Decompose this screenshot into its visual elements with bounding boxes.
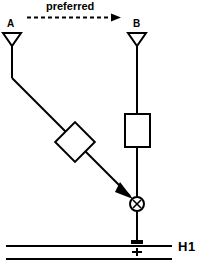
- antenna-a-symbol: [3, 33, 21, 78]
- branch-a-path: [12, 78, 133, 199]
- branch-b-path: [125, 114, 150, 197]
- bus-h1-label: H1: [178, 240, 196, 253]
- rectangle-component: [125, 114, 150, 147]
- antenna-b-label: B: [133, 19, 140, 29]
- antenna-b-symbol: [128, 33, 146, 114]
- mixer-symbol: [130, 197, 144, 211]
- antenna-a-triangle: [3, 33, 21, 46]
- antenna-b-triangle: [128, 33, 146, 46]
- preferred-direction-arrow: [27, 14, 121, 22]
- schematic-canvas: [0, 0, 206, 267]
- bus-tap-bar: [131, 240, 143, 244]
- dashed-arrow-head: [111, 14, 121, 22]
- antenna-a-label: A: [7, 19, 14, 29]
- schematic-diagram: preferred A B H1: [0, 0, 206, 267]
- bus-h1: [6, 246, 172, 259]
- preferred-label: preferred: [46, 1, 94, 12]
- bus-drop-lead: [131, 211, 143, 244]
